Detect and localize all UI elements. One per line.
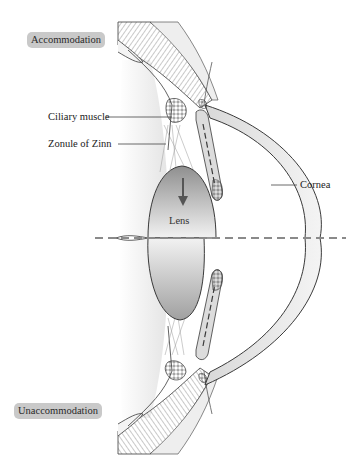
eye-accommodation-diagram (0, 0, 353, 471)
lens-label: Lens (169, 215, 189, 226)
unaccommodation-label: Unaccommodation (14, 403, 102, 419)
zonule-label: Zonule of Zinn (48, 137, 112, 150)
cornea (205, 105, 321, 385)
accommodation-label: Accommodation (27, 32, 105, 48)
ciliary-muscle-label: Ciliary muscle (48, 110, 110, 123)
cornea-label: Cornea (300, 178, 330, 191)
